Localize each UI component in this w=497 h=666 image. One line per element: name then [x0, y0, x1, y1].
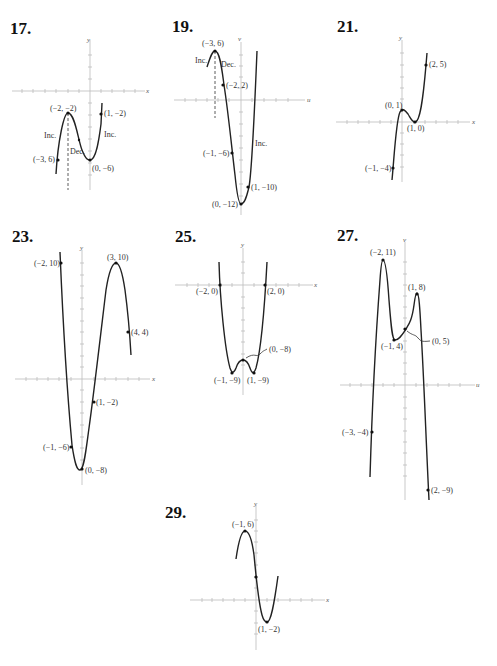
graph-17-plot: x y (−2, −2) (1, −2) (−3, 6) (0, −6) Inc…: [0, 0, 165, 200]
point-label: (0, 1): [385, 101, 403, 110]
y-axis-label: y: [240, 241, 245, 249]
point-label: (1, −2): [104, 109, 126, 118]
point-label: (1, 8): [408, 283, 426, 292]
y-axis-label: y: [253, 500, 258, 508]
graph-23-plot: x y (−2, 10) (3, 10) (4, 4) (1, −2) (−1,…: [0, 210, 170, 500]
y-axis-label: v: [403, 236, 407, 244]
point-label: (−3, 6): [202, 39, 224, 48]
graph-19: 19. u v (−3, 6) (−2, 2) (−1, −6) (1, −10…: [160, 0, 340, 220]
graph-19-plot: u v (−3, 6) (−2, 2) (−1, −6) (1, −10) (0…: [160, 0, 340, 220]
x-axis-label: x: [471, 118, 476, 126]
annotation-inc: Inc.: [104, 130, 116, 139]
point-label: (1, −2): [96, 398, 118, 407]
point-label: (−3, 6): [33, 155, 55, 164]
point-label: (0, −8): [269, 345, 291, 354]
point-label: (−1, −6): [43, 443, 70, 452]
point-label: (1, −10): [251, 183, 277, 192]
graph-29: 29. x y (−1, 6) (1, −2): [150, 490, 350, 666]
point-label: (−1, −9): [214, 376, 241, 385]
point-label: (0, 5): [432, 337, 450, 346]
point-label: (0, −6): [92, 164, 114, 173]
point-label: (−1, 6): [232, 520, 254, 529]
graph-21: 21. x y (2, 5) (0, 1) (1, 0) (−1, −4): [330, 0, 497, 200]
x-axis-label: u: [476, 381, 480, 389]
point-label: (4, 4): [131, 328, 149, 337]
graph-25: 25. x y (−2, 0) (2, 0) (0, −8) (−1, −9) …: [160, 210, 335, 410]
point-label: (2, 5): [429, 60, 447, 69]
graph-21-plot: x y (2, 5) (0, 1) (1, 0) (−1, −4): [330, 0, 497, 200]
point-label: (−2, 0): [196, 287, 218, 296]
annotation-dec: Dec.: [221, 60, 236, 69]
annotation-inc: Inc.: [44, 131, 56, 140]
point-label: (1, 0): [407, 124, 425, 133]
point-label: (3, 10): [107, 253, 129, 262]
point-label: (−2, 10): [34, 259, 60, 268]
point-label: (2, 0): [267, 287, 285, 296]
point-label: (−2, 2): [226, 81, 248, 90]
point-label: (−2, 11): [370, 248, 396, 257]
y-axis-label: y: [79, 244, 84, 252]
annotation-dec: Dec.: [70, 147, 85, 156]
graph-27: 27. u v (−2, 11) (1, 8) (−1, 4) (0, 5) (…: [325, 210, 497, 500]
point-label: (−2, −2): [50, 104, 77, 113]
point-label: (−1, 4): [381, 342, 403, 351]
x-axis-label: x: [313, 281, 318, 289]
point-label: (0, −12): [212, 200, 238, 209]
annotation-inc: Inc.: [255, 139, 267, 148]
x-axis-label: u: [307, 96, 311, 104]
point-label: (−1, −4): [365, 164, 392, 173]
graph-25-plot: x y (−2, 0) (2, 0) (0, −8) (−1, −9) (1, …: [160, 210, 335, 410]
graph-27-plot: u v (−2, 11) (1, 8) (−1, 4) (0, 5) (−3, …: [325, 210, 497, 500]
x-axis-label: x: [325, 596, 330, 604]
graph-29-plot: x y (−1, 6) (1, −2): [150, 490, 350, 666]
x-axis-label: x: [145, 87, 150, 95]
point-label: (−1, −6): [203, 149, 230, 158]
annotation-inc: Inc.: [195, 56, 207, 65]
point-label: (0, −8): [85, 466, 107, 475]
graph-23: 23. x y (−2, 10) (3, 10) (4, 4) (1, −2) …: [0, 210, 170, 500]
y-axis-label: v: [238, 35, 242, 43]
graph-17: 17. x y (−2, −2) (1, −2) (−3, 6) (0, −6)…: [0, 0, 165, 200]
point-label: (−3, −4): [342, 428, 369, 437]
point-label: (1, −2): [258, 625, 280, 634]
point-label: (1, −9): [247, 376, 269, 385]
point-label: (2, −9): [431, 486, 453, 495]
x-axis-label: x: [151, 375, 156, 383]
